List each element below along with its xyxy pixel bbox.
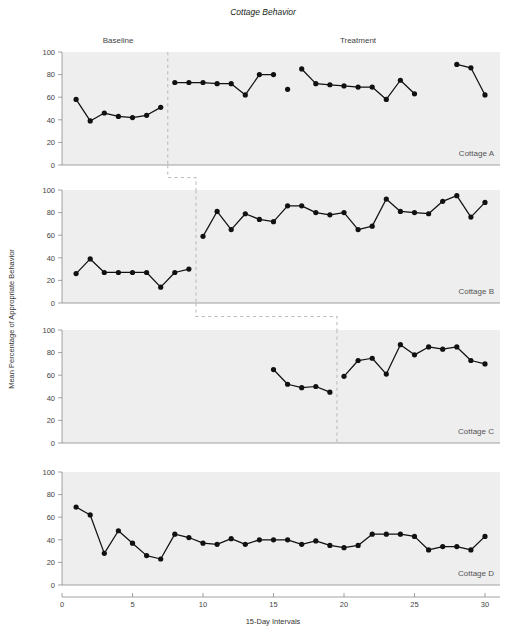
treatment-point — [243, 92, 248, 97]
x-axis-title: 15-Day Intervals — [246, 617, 301, 626]
panel-cottage-b: 020406080100Cottage B — [42, 186, 500, 308]
baseline-point — [454, 544, 459, 549]
baseline-point — [398, 532, 403, 537]
panel-label: Cottage B — [458, 287, 494, 296]
y-tick-label: 60 — [47, 513, 55, 522]
treatment-point — [257, 217, 262, 222]
baseline-point — [102, 270, 107, 275]
y-tick-label: 20 — [47, 138, 55, 147]
baseline-point — [172, 270, 177, 275]
treatment-point — [370, 356, 375, 361]
plot-background — [62, 330, 500, 443]
plot-background — [62, 52, 500, 165]
phase-change-connector — [168, 165, 196, 190]
baseline-point — [116, 114, 121, 119]
treatment-point — [299, 203, 304, 208]
baseline-point — [341, 545, 346, 550]
x-tick-label: 15 — [269, 600, 277, 609]
x-axis: 051015202530 — [60, 593, 500, 609]
baseline-point — [285, 382, 290, 387]
y-tick-label: 40 — [47, 394, 55, 403]
treatment-point — [426, 211, 431, 216]
treatment-point — [440, 199, 445, 204]
y-tick-label: 0 — [51, 439, 55, 448]
y-tick-label: 80 — [47, 208, 55, 217]
treatment-point — [243, 211, 248, 216]
y-tick-label: 60 — [47, 231, 55, 240]
panel-label: Cottage C — [458, 427, 494, 436]
plot-background — [62, 472, 500, 585]
phase-label-baseline: Baseline — [103, 36, 134, 45]
x-tick-label: 25 — [410, 600, 418, 609]
baseline-point — [426, 547, 431, 552]
baseline-point — [186, 535, 191, 540]
baseline-point — [144, 113, 149, 118]
baseline-point — [356, 543, 361, 548]
y-tick-label: 40 — [47, 536, 55, 545]
baseline-point — [299, 542, 304, 547]
plot-background — [62, 190, 500, 303]
treatment-point — [412, 210, 417, 215]
treatment-point — [384, 371, 389, 376]
treatment-point — [215, 81, 220, 86]
baseline-point — [285, 537, 290, 542]
y-tick-label: 60 — [47, 371, 55, 380]
baseline-point — [384, 532, 389, 537]
y-tick-label: 100 — [42, 48, 55, 57]
baseline-point — [130, 115, 135, 120]
treatment-point — [454, 193, 459, 198]
baseline-point — [158, 105, 163, 110]
panel-label: Cottage A — [459, 149, 495, 158]
treatment-point — [468, 65, 473, 70]
treatment-point — [454, 62, 459, 67]
treatment-point — [285, 87, 290, 92]
baseline-point — [116, 270, 121, 275]
baseline-point — [88, 118, 93, 123]
y-tick-label: 40 — [47, 116, 55, 125]
baseline-point — [482, 534, 487, 539]
baseline-point — [88, 256, 93, 261]
baseline-point — [229, 536, 234, 541]
treatment-point — [426, 344, 431, 349]
baseline-point — [271, 367, 276, 372]
y-axis-title: Mean Percentage of Appropriate Behavior — [7, 249, 16, 389]
x-tick-label: 20 — [340, 600, 348, 609]
baseline-point — [327, 390, 332, 395]
treatment-point — [412, 91, 417, 96]
baseline-point — [440, 544, 445, 549]
figure-title: Cottage Behavior — [230, 7, 297, 17]
x-tick-label: 10 — [199, 600, 207, 609]
y-tick-label: 20 — [47, 558, 55, 567]
y-tick-label: 40 — [47, 254, 55, 263]
treatment-point — [398, 342, 403, 347]
treatment-point — [468, 215, 473, 220]
treatment-point — [356, 227, 361, 232]
treatment-point — [468, 358, 473, 363]
baseline-point — [215, 542, 220, 547]
baseline-point — [172, 532, 177, 537]
x-tick-label: 0 — [60, 600, 64, 609]
baseline-point — [102, 110, 107, 115]
baseline-point — [74, 271, 79, 276]
treatment-point — [356, 84, 361, 89]
baseline-point — [130, 541, 135, 546]
baseline-point — [186, 267, 191, 272]
y-tick-label: 60 — [47, 93, 55, 102]
y-tick-label: 20 — [47, 416, 55, 425]
treatment-point — [215, 209, 220, 214]
treatment-point — [327, 212, 332, 217]
treatment-point — [313, 210, 318, 215]
treatment-point — [229, 227, 234, 232]
baseline-point — [116, 528, 121, 533]
baseline-point — [74, 97, 79, 102]
y-tick-label: 80 — [47, 490, 55, 499]
x-tick-label: 30 — [481, 600, 489, 609]
treatment-point — [482, 200, 487, 205]
treatment-point — [257, 72, 262, 77]
panel-cottage-d: 020406080100Cottage D — [42, 468, 500, 590]
treatment-point — [454, 344, 459, 349]
baseline-point — [327, 543, 332, 548]
treatment-point — [186, 80, 191, 85]
y-tick-label: 0 — [51, 299, 55, 308]
y-tick-label: 80 — [47, 70, 55, 79]
